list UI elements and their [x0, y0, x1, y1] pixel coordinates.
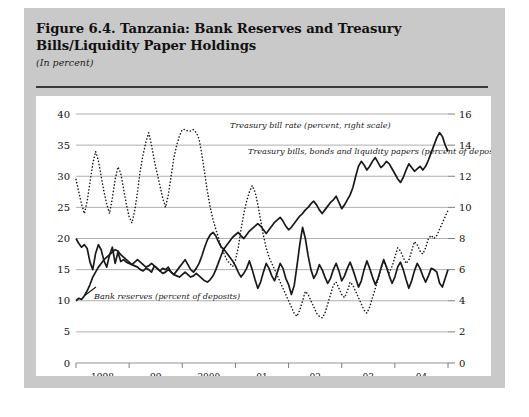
- x-axis-tick-label: 99: [150, 372, 162, 376]
- figure-subtitle: (In percent): [36, 57, 486, 68]
- right-axis-tick-label: 16: [459, 109, 472, 120]
- series-line: [76, 227, 448, 294]
- left-axis-tick-label: 35: [57, 140, 70, 151]
- figure-panel: Figure 6.4. Tanzania: Bank Reserves and …: [24, 8, 505, 388]
- right-axis-tick-label: 0: [459, 358, 465, 369]
- right-axis-tick-label: 10: [459, 202, 472, 213]
- x-axis-tick-label: 03: [363, 372, 375, 376]
- left-axis-tick-label: 30: [57, 171, 70, 182]
- figure-header: Figure 6.4. Tanzania: Bank Reserves and …: [36, 20, 486, 68]
- annotation-treasury-bill-rate: Treasury bill rate (percent, right scale…: [230, 120, 391, 130]
- left-axis-tick-label: 25: [57, 202, 70, 213]
- left-axis-tick-label: 40: [57, 109, 70, 120]
- right-axis-tick-label: 6: [459, 264, 465, 275]
- right-axis-tick-label: 8: [459, 233, 465, 244]
- x-axis-tick-label: 02: [309, 372, 320, 376]
- left-axis-tick-label: 5: [64, 326, 70, 337]
- figure-title: Figure 6.4. Tanzania: Bank Reserves and …: [36, 20, 486, 54]
- x-axis-tick-label: 01: [256, 372, 267, 376]
- right-axis-tick-label: 12: [459, 171, 472, 182]
- annotation-treasury-bills-bonds: Treasury bills, bonds and liquidity pape…: [248, 146, 491, 156]
- series-line: [76, 130, 448, 318]
- x-axis-tick-label: 1998: [91, 372, 114, 376]
- line-chart: 0510152025303540024681012141619989920000…: [36, 96, 491, 376]
- left-axis-tick-label: 10: [57, 295, 70, 306]
- right-axis-tick-label: 4: [459, 295, 465, 306]
- left-axis-tick-label: 0: [64, 358, 70, 369]
- header-divider: [36, 86, 488, 88]
- left-axis-tick-label: 15: [57, 264, 70, 275]
- right-axis-tick-label: 2: [459, 326, 465, 337]
- x-axis-tick-label: 04: [416, 372, 428, 376]
- left-axis-tick-label: 20: [57, 233, 70, 244]
- annotation-bank-reserves: Bank reserves (percent of deposits): [93, 291, 240, 301]
- x-axis-tick-label: 2000: [197, 372, 220, 376]
- chart-plot-area: 0510152025303540024681012141619989920000…: [36, 96, 491, 376]
